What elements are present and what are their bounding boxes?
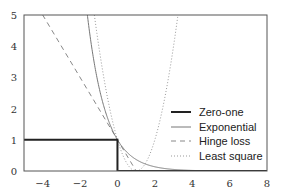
x-tick-label: 0 [114,178,120,189]
legend-label: Hinge loss [199,135,251,147]
x-tick-label: −2 [73,178,88,189]
plot-frame [24,15,267,171]
y-tick-label: 3 [11,72,17,83]
y-tick-label: 2 [11,104,17,115]
legend-item-least-square: Least square [171,150,263,162]
x-axis-ticks: −4−202468 [35,178,270,189]
legend-item-exponential: Exponential [171,121,257,133]
y-tick-label: 5 [11,10,17,21]
y-axis-ticks: 012345 [11,10,17,177]
x-tick-label: 2 [152,178,158,189]
x-tick-label: 4 [189,178,195,189]
x-tick-label: 6 [226,178,232,189]
x-tick-label: 8 [264,178,270,189]
legend-label: Exponential [199,121,257,133]
legend-label: Zero-one [199,106,244,118]
series-least-square [91,0,182,171]
legend-label: Least square [199,150,263,162]
loss-functions-chart: −4−202468 012345 Zero-one Exponential Hi… [0,0,283,194]
y-tick-label: 4 [11,41,17,52]
legend-item-zero-one: Zero-one [171,106,244,118]
x-tick-label: −4 [35,178,50,189]
y-tick-label: 1 [11,135,17,146]
y-tick-label: 0 [11,166,17,177]
legend: Zero-one Exponential Hinge loss Least sq… [171,106,263,162]
legend-item-hinge-loss: Hinge loss [171,135,251,147]
